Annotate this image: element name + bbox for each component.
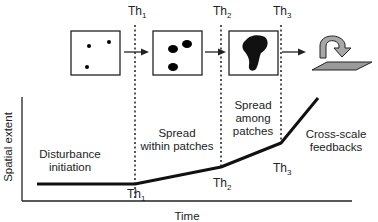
phase-label-cross-scale-feedbacks: Cross-scale feedbacks (302, 128, 370, 154)
arrow-1-to-2 (124, 49, 149, 56)
dot (107, 40, 111, 44)
threshold-1-top-label: Th1 (128, 4, 146, 20)
threshold-1-curve-label: Th1 (127, 187, 145, 203)
blob (182, 40, 192, 48)
disturbance-initiation-panel (71, 31, 120, 75)
diagram-canvas (0, 0, 378, 222)
phase-label-disturbance-initiation: Disturbance initiation (38, 148, 102, 174)
phase-label-spread-among-patches: Spread among patches (228, 99, 278, 138)
arrow-2-to-3 (205, 49, 226, 56)
arrow-3-to-4 (282, 49, 306, 56)
spread-among-patches-panel (229, 31, 278, 75)
threshold-3-curve-label: Th3 (273, 161, 291, 177)
x-axis-label: Time (167, 210, 207, 222)
threshold-2-curve-label: Th2 (213, 176, 231, 192)
threshold-2-top-label: Th2 (213, 4, 231, 20)
threshold-3-top-label: Th3 (273, 4, 291, 20)
spread-within-patches-panel (153, 31, 202, 75)
y-axis-label: Spatial extent (2, 111, 14, 183)
curved-arrow (320, 36, 351, 58)
dot (87, 44, 91, 48)
blob (168, 45, 178, 53)
cross-scale-feedbacks-icon (312, 36, 372, 70)
phase-label-spread-within-patches: Spread within patches (140, 127, 214, 153)
dot (85, 65, 89, 69)
blob (168, 63, 178, 71)
landscape-plane (312, 62, 372, 70)
